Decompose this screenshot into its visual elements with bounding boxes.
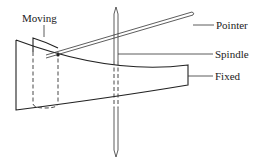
- label-fixed: Fixed: [215, 70, 241, 82]
- pointer-edge-bottom: [46, 15, 193, 58]
- pointer-tip: [192, 12, 194, 15]
- label-moving: Moving: [22, 12, 57, 24]
- spindle: [114, 7, 118, 157]
- label-pointer: Pointer: [216, 19, 248, 31]
- fixed-vane-outline: [16, 40, 188, 110]
- pointer-edge-top: [46, 12, 192, 55]
- vane-pivot-dot: [56, 53, 59, 56]
- moving-vane: [33, 38, 58, 108]
- instrument-diagram: Moving Pointer Spindle Fixed: [0, 0, 261, 167]
- spindle-bottom: [114, 108, 118, 157]
- label-spindle: Spindle: [215, 48, 249, 60]
- fixed-vane: [16, 40, 188, 110]
- pointer: [46, 12, 194, 58]
